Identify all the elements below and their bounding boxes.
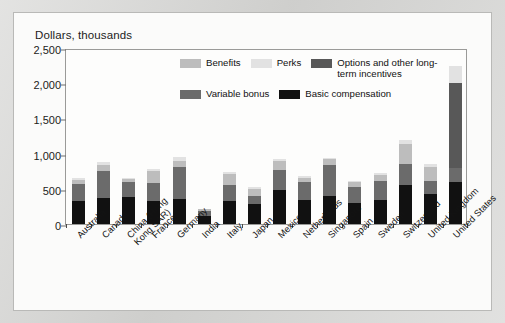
bar-segment	[273, 190, 286, 224]
bar-segment	[298, 182, 311, 200]
bar-segment	[273, 161, 286, 170]
bar-segment	[399, 144, 412, 164]
legend-label-perks: Perks	[277, 58, 302, 69]
bar-segment	[449, 168, 462, 182]
bar-segment	[248, 196, 261, 204]
chart-legend: Benefits Perks Options and other long-te…	[180, 58, 450, 110]
y-tick-label: 500	[43, 185, 61, 197]
bar-segment	[399, 164, 412, 185]
bar-segment	[223, 201, 236, 224]
chart-page: Dollars, thousands 05001,0001,5002,0002,…	[0, 0, 505, 323]
legend-label-variable-bonus: Variable bonus	[206, 89, 269, 100]
bar-segment	[248, 189, 261, 196]
bar-segment	[449, 66, 462, 84]
legend-label-basic-line1: Basic	[305, 88, 328, 99]
bar-segment	[147, 171, 160, 183]
bar-segment	[248, 204, 261, 224]
y-tick-label: 0	[55, 220, 61, 232]
bar-japan	[248, 187, 261, 224]
plot-area: 05001,0001,5002,0002,500 AustraliaCanada…	[65, 49, 467, 225]
chart-card: Dollars, thousands 05001,0001,5002,0002,…	[13, 12, 492, 311]
y-tick-mark	[61, 120, 66, 121]
y-tick-label: 2,000	[33, 79, 61, 91]
bar-italy	[223, 172, 236, 224]
legend-swatch-options	[311, 59, 332, 68]
bar-sweden	[374, 173, 387, 224]
legend-swatch-perks	[251, 59, 272, 68]
bar-segment	[122, 182, 135, 197]
bar-segment	[374, 181, 387, 200]
legend-item-perks: Perks	[251, 58, 302, 69]
legend-label-basic-line2: compensation	[331, 88, 391, 99]
bar-segment	[173, 167, 186, 199]
legend-item-options: Options and other long-term incentives	[311, 58, 440, 79]
bar-mexico	[273, 159, 286, 224]
legend-row-2: Variable bonus Basic compensation	[180, 89, 450, 100]
legend-label-options-line1: Options and other	[337, 57, 413, 68]
legend-label-options: Options and other long-term incentives	[337, 58, 440, 79]
bar-australia	[72, 178, 85, 224]
y-tick-label: 2,500	[33, 44, 61, 56]
bar-segment	[72, 184, 85, 202]
bar-germany	[173, 157, 186, 224]
bar-segment	[348, 187, 361, 202]
bar-segment	[223, 174, 236, 185]
legend-row-1: Benefits Perks Options and other long-te…	[180, 58, 450, 79]
bar-segment	[424, 181, 437, 194]
legend-swatch-basic-compensation	[279, 90, 300, 99]
y-tick-label: 1,000	[33, 150, 61, 162]
bar-segment	[223, 185, 236, 201]
bar-segment	[97, 171, 110, 198]
legend-swatch-variable-bonus	[180, 90, 201, 99]
legend-label-basic-compensation: Basic compensation	[305, 89, 391, 100]
x-tick-mark	[66, 224, 67, 228]
y-axis-title: Dollars, thousands	[35, 29, 132, 41]
legend-item-variable-bonus: Variable bonus	[180, 89, 269, 100]
bar-segment	[424, 167, 437, 181]
bar-segment	[72, 201, 85, 224]
y-tick-mark	[61, 155, 66, 156]
y-tick-mark	[61, 190, 66, 191]
bar-segment	[323, 165, 336, 196]
bar-segment	[449, 83, 462, 167]
legend-item-basic-compensation: Basic compensation	[279, 89, 391, 100]
legend-item-benefits: Benefits	[180, 58, 241, 69]
y-tick-label: 1,500	[33, 114, 61, 126]
bar-segment	[273, 170, 286, 190]
y-tick-mark	[61, 50, 66, 51]
legend-swatch-benefits	[180, 59, 201, 68]
y-tick-mark	[61, 85, 66, 86]
legend-label-benefits: Benefits	[206, 58, 241, 69]
bar-segment	[374, 200, 387, 224]
